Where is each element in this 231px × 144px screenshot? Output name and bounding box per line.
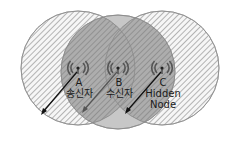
node-letter-b: B [104, 77, 134, 88]
node-role-c-line1: Hidden [145, 88, 181, 99]
node-role-a: 송신자 [64, 88, 94, 99]
node-letter-c: C [145, 77, 181, 88]
node-role-b: 수신자 [104, 88, 134, 99]
node-letter-a: A [64, 77, 94, 88]
hidden-node-diagram [0, 0, 231, 144]
node-role-c-line2: Node [145, 99, 181, 110]
node-label-b: B 수신자 [104, 77, 134, 99]
node-label-c: C Hidden Node [145, 77, 181, 110]
node-label-a: A 송신자 [64, 77, 94, 99]
